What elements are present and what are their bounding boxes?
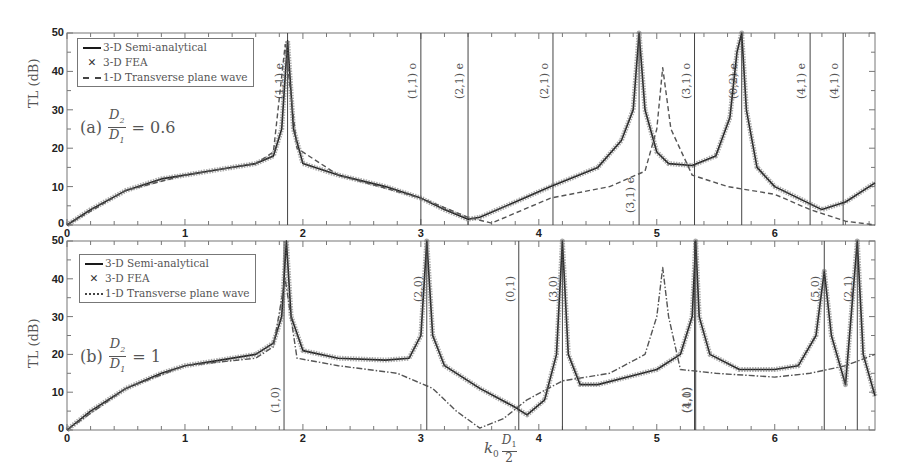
mode-label: (4,0) [681, 387, 694, 413]
x-tick-label: 4 [536, 432, 543, 444]
mode-label: (4,1) e [795, 63, 808, 99]
ylabel-text: TL (dB) [26, 319, 41, 368]
panel-a-ylabel: TL (dB) [26, 59, 41, 108]
x-tick-label: 0 [64, 432, 70, 444]
legend-item-semi: 3-D Semi-analytical [83, 40, 248, 55]
legend-item-semi: 3-D Semi-analytical [85, 256, 250, 271]
xlabel-num: D [502, 433, 512, 447]
xlabel-num-sub: 1 [511, 440, 516, 449]
x-tick-label: 4 [536, 227, 543, 239]
x-tick-label: 5 [654, 227, 660, 239]
x-tick-label: 6 [772, 432, 778, 444]
legend-label: 1-D Transverse plane wave [103, 70, 248, 85]
panel-b-value: = 1 [132, 347, 161, 366]
frac-den: D [109, 127, 119, 142]
y-tick-label: 20 [52, 142, 64, 154]
legend-label: 3-D Semi-analytical [103, 40, 207, 55]
mode-label: (3,1) e [624, 177, 637, 213]
x-axis-label: k0 D1 2 [484, 434, 517, 464]
ratio-fraction: D2 D1 [108, 108, 126, 146]
y-tick-label: 30 [52, 311, 64, 323]
panel-b-title: (b) D2 D1 = 1 [80, 337, 161, 375]
panel-a-title: (a) D2 D1 = 0.6 [80, 108, 176, 146]
xlabel-sub: 0 [493, 449, 499, 459]
y-tick-label: 30 [52, 104, 64, 116]
mode-label: (1,0) [269, 387, 282, 413]
x-tick-label: 1 [182, 432, 188, 444]
frac-num-sub: 2 [119, 116, 124, 125]
mode-label: (2,1) e [453, 63, 466, 99]
frac-num: D [109, 107, 119, 122]
mode-label: (2,1) o [538, 63, 551, 100]
cross-marker-icon: ✕ [83, 55, 101, 70]
y-tick-label: 40 [52, 273, 64, 285]
legend-label: 3-D FEA [103, 55, 148, 70]
frac-den: D [110, 356, 120, 371]
x-tick-label: 6 [772, 227, 778, 239]
legend-label: 3-D Semi-analytical [105, 256, 209, 271]
legend-a: 3-D Semi-analytical ✕3-D FEA 1-D Transve… [77, 38, 254, 87]
legend-item-fea: ✕3-D FEA [85, 271, 250, 286]
solid-line-icon [83, 47, 101, 49]
xlabel-den: 2 [505, 452, 513, 464]
y-tick-label: 10 [52, 181, 64, 193]
legend-label: 1-D Transverse plane wave [105, 286, 250, 301]
frac-num-sub: 2 [120, 345, 125, 354]
x-tick-label: 2 [300, 432, 306, 444]
frac-num: D [110, 336, 120, 351]
x-tick-label: 0 [64, 227, 70, 239]
dashdot-line-icon [85, 293, 103, 295]
mode-label: (3,1) o [680, 63, 693, 100]
mode-label: (1,1) o [406, 63, 419, 100]
panel-b-ylabel: TL (dB) [26, 319, 41, 368]
cross-marker-icon: ✕ [85, 271, 103, 286]
y-tick-label: 50 [52, 234, 64, 246]
x-tick-label: 5 [654, 432, 660, 444]
y-tick-label: 40 [52, 65, 64, 77]
frac-den-sub: 1 [120, 364, 125, 373]
panel-a-prefix: (a) [80, 118, 102, 137]
legend-item-plane: 1-D Transverse plane wave [85, 286, 250, 301]
ylabel-text: TL (dB) [26, 59, 41, 108]
solid-line-icon [85, 263, 103, 265]
legend-b: 3-D Semi-analytical ✕3-D FEA 1-D Transve… [79, 254, 256, 303]
panel-b-prefix: (b) [80, 347, 103, 366]
xlabel-k: k [484, 439, 493, 457]
x-tick-label: 2 [300, 227, 306, 239]
panel-a-value: = 0.6 [132, 118, 176, 137]
ratio-fraction: D2 D1 [109, 337, 127, 375]
mode-label: (4,1) o [828, 63, 841, 100]
y-tick-label: 50 [52, 26, 64, 38]
y-tick-label: 10 [52, 386, 64, 398]
legend-label: 3-D FEA [105, 271, 150, 286]
y-tick-label: 20 [52, 348, 64, 360]
legend-item-fea: ✕3-D FEA [83, 55, 248, 70]
y-tick-label: 0 [58, 422, 64, 434]
x-tick-label: 1 [182, 227, 188, 239]
mode-label: (0,1) [504, 276, 517, 302]
frac-den-sub: 1 [119, 135, 124, 144]
y-tick-label: 0 [58, 217, 64, 229]
legend-item-plane: 1-D Transverse plane wave [83, 70, 248, 85]
dashed-line-icon [83, 77, 101, 79]
x-tick-label: 3 [418, 432, 424, 444]
x-tick-label: 3 [418, 227, 424, 239]
